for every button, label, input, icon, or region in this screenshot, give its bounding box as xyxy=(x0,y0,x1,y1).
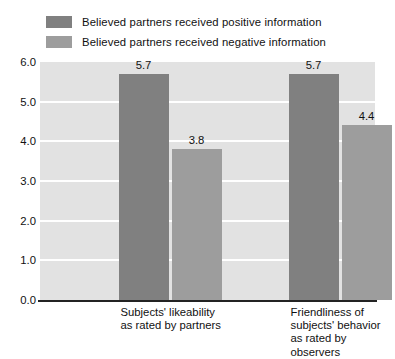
y-axis: 0.01.02.03.04.05.06.0 xyxy=(0,0,36,346)
x-axis-line xyxy=(38,300,377,302)
bar xyxy=(172,149,222,300)
y-axis-tick-label: 1.0 xyxy=(2,255,36,266)
y-axis-tick-label: 0.0 xyxy=(2,295,36,306)
legend-label-positive: Believed partners received positive info… xyxy=(82,16,322,28)
x-axis-category-label: Subjects' likeability as rated by partne… xyxy=(121,306,221,332)
bar xyxy=(289,74,339,300)
legend-swatch-negative xyxy=(46,36,72,48)
bar-value-label: 5.7 xyxy=(289,60,339,71)
bar-value-label: 3.8 xyxy=(172,135,222,146)
y-axis-tick-label: 4.0 xyxy=(2,136,36,147)
bar xyxy=(119,74,169,300)
legend-label-negative: Believed partners received negative info… xyxy=(82,36,326,48)
y-axis-tick-label: 3.0 xyxy=(2,176,36,187)
legend-swatch-positive xyxy=(46,16,72,28)
y-axis-tick-label: 5.0 xyxy=(2,97,36,108)
plot-area xyxy=(40,62,375,300)
legend-item-positive: Believed partners received positive info… xyxy=(46,13,376,31)
legend-item-negative: Believed partners received negative info… xyxy=(46,33,376,51)
bar-value-label: 4.4 xyxy=(342,111,392,122)
chart-legend: Believed partners received positive info… xyxy=(46,13,376,53)
y-axis-tick-label: 2.0 xyxy=(2,216,36,227)
x-axis-category-label: Friendliness of subjects' behavior as ra… xyxy=(291,306,395,359)
bar xyxy=(342,125,392,300)
bar-value-label: 5.7 xyxy=(119,60,169,71)
y-axis-tick-label: 6.0 xyxy=(2,57,36,68)
